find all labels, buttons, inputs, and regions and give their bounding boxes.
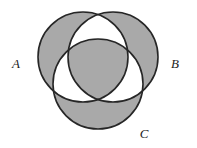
- set-label-a: A: [11, 56, 20, 71]
- set-label-c: C: [140, 126, 149, 141]
- venn-diagram-figure: A B C: [0, 0, 197, 148]
- set-label-b: B: [171, 56, 179, 71]
- venn-diagram-canvas: A B C: [0, 0, 197, 148]
